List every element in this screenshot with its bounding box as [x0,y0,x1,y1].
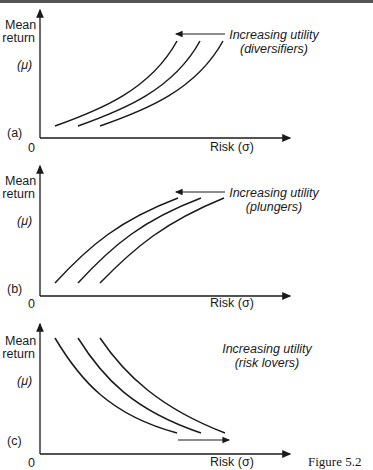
x-label: Risk (σ) [210,455,254,469]
y-label-return: return [0,187,35,201]
figure-caption: Figure 5.2 [308,454,361,470]
chart-panel-c: Mean return (μ) (c) 0 Risk (σ) Increasin… [0,310,373,470]
annotation-line2: (risk lovers) [212,356,322,370]
y-label-mean: Mean [5,334,35,348]
y-label-symbol: (μ) [17,374,32,388]
y-label-mean: Mean [5,18,35,32]
annotation-line1: Increasing utility [212,342,322,356]
chart-b-plot [0,160,373,310]
x-label: Risk (σ) [210,140,254,154]
x-label: Risk (σ) [210,296,254,310]
chart-c-plot [0,310,373,470]
panel-label-b: (b) [7,282,22,296]
panel-label-c: (c) [7,434,22,448]
annotation-line1: Increasing utility [224,28,324,42]
chart-panel-a: Mean return (μ) (a) 0 Risk (σ) Increasin… [0,0,373,155]
panel-label-a: (a) [7,126,22,140]
y-label-mean: Mean [5,174,35,188]
origin-label: 0 [28,456,35,470]
annotation-line1: Increasing utility [224,186,324,200]
annotation-line2: (plungers) [224,200,324,214]
chart-panel-b: Mean return (μ) (b) 0 Risk (σ) Increasin… [0,160,373,310]
y-label-symbol: (μ) [17,58,32,72]
annotation-line2: (diversifiers) [224,42,324,56]
y-label-return: return [0,347,35,361]
y-label-symbol: (μ) [17,214,32,228]
chart-a-plot [0,0,373,155]
origin-label: 0 [28,297,35,311]
y-label-return: return [0,31,35,45]
origin-label: 0 [28,141,35,155]
